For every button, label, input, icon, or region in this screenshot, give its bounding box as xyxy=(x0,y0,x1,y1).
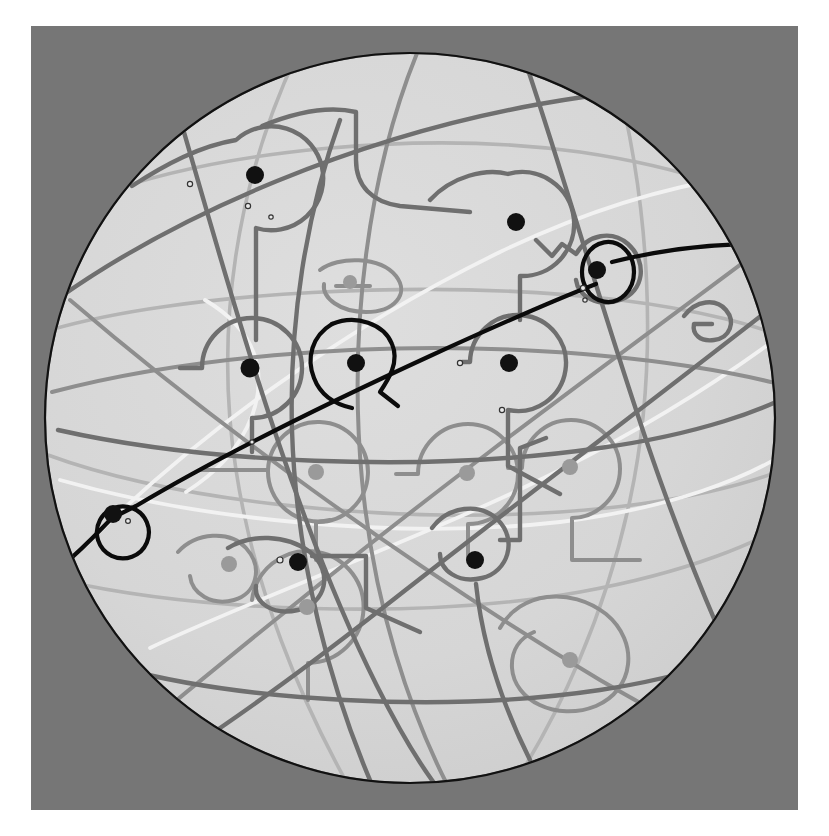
tiny-marker xyxy=(245,203,250,208)
node-marker-back xyxy=(343,275,357,289)
tiny-marker xyxy=(277,557,283,563)
node-marker-marked xyxy=(104,505,122,523)
node-marker-back xyxy=(299,599,315,615)
node-marker-marked xyxy=(588,261,606,279)
node-marker-back xyxy=(562,652,578,668)
tiny-marker xyxy=(187,181,192,186)
tiny-marker xyxy=(580,285,585,290)
sphere-fill xyxy=(46,54,774,782)
node-marker-back xyxy=(308,464,324,480)
node-marker-back xyxy=(221,556,237,572)
node-marker-marked xyxy=(466,551,484,569)
node-marker-marked xyxy=(500,354,518,372)
sphere-diagram xyxy=(0,0,829,836)
node-marker-marked xyxy=(246,166,264,184)
tiny-marker xyxy=(499,407,504,412)
tiny-marker xyxy=(457,360,462,365)
tiny-marker xyxy=(269,215,273,219)
node-marker-marked xyxy=(347,354,365,372)
node-marker-back xyxy=(562,459,578,475)
node-marker-back xyxy=(459,465,475,481)
tiny-marker xyxy=(250,440,254,444)
tiny-marker xyxy=(126,519,131,524)
node-marker-marked xyxy=(507,213,525,231)
tiny-marker xyxy=(583,298,587,302)
node-marker-marked xyxy=(241,359,260,378)
figure-root xyxy=(0,0,829,836)
node-marker-marked xyxy=(289,553,307,571)
